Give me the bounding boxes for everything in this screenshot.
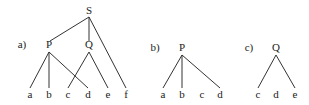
tree-edge [68, 52, 89, 88]
tree-node-P: P [179, 41, 185, 53]
panel-label-a: a) [18, 38, 27, 51]
panel-label-c: c) [245, 41, 254, 54]
tree-node-S: S [86, 4, 92, 16]
tree-edge [89, 17, 126, 88]
tree-a: a) SPQabcdef [18, 4, 128, 100]
tree-edge [163, 55, 182, 88]
tree-edge [89, 52, 108, 88]
tree-node-b: b [179, 88, 185, 100]
tree-edge [50, 17, 89, 41]
tree-node-c: c [200, 88, 205, 100]
edges [30, 17, 126, 88]
tree-node-f: f [124, 88, 128, 100]
tree-node-c: c [66, 88, 71, 100]
tree-edge [49, 52, 88, 88]
tree-node-d: d [273, 88, 279, 100]
tree-node-P: P [46, 38, 52, 50]
panel-label-b: b) [150, 41, 160, 54]
tree-edge [182, 55, 220, 88]
tree-edge [276, 55, 295, 88]
tree-node-c: c [256, 88, 261, 100]
tree-node-Q: Q [85, 38, 93, 50]
tree-node-Q: Q [272, 41, 280, 53]
tree-c: c) Qcde [245, 41, 298, 100]
tree-edge [258, 55, 276, 88]
tree-node-e: e [293, 88, 298, 100]
tree-b: b) Pabcd [150, 41, 223, 100]
nodes: Qcde [256, 41, 298, 100]
tree-diagrams: a) SPQabcdef b) Pabcd c) Qcde [0, 0, 309, 105]
tree-edge [30, 52, 49, 88]
tree-node-d: d [85, 88, 91, 100]
edges [163, 55, 220, 88]
tree-node-b: b [46, 88, 52, 100]
nodes: Pabcd [161, 41, 224, 100]
tree-node-e: e [106, 88, 111, 100]
edges [258, 55, 295, 88]
nodes: SPQabcdef [28, 4, 129, 100]
tree-node-a: a [161, 88, 166, 100]
tree-node-a: a [28, 88, 33, 100]
tree-node-d: d [217, 88, 223, 100]
